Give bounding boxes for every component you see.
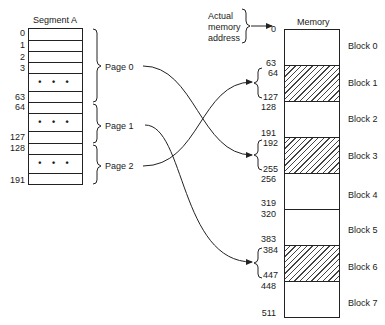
page-1-brace (93, 104, 101, 143)
page-1-to-block-6-arrow (145, 125, 252, 262)
block-3-brace (254, 140, 262, 170)
mapping-arrows (0, 0, 385, 325)
page-2-brace (93, 145, 101, 184)
block-1-brace (254, 68, 262, 98)
page-0-to-block-3-arrow (143, 66, 252, 155)
page-0-brace (93, 29, 101, 102)
page-2-to-block-1-arrow (143, 82, 252, 166)
caption-brace (242, 9, 250, 43)
block-6-brace (254, 248, 262, 278)
